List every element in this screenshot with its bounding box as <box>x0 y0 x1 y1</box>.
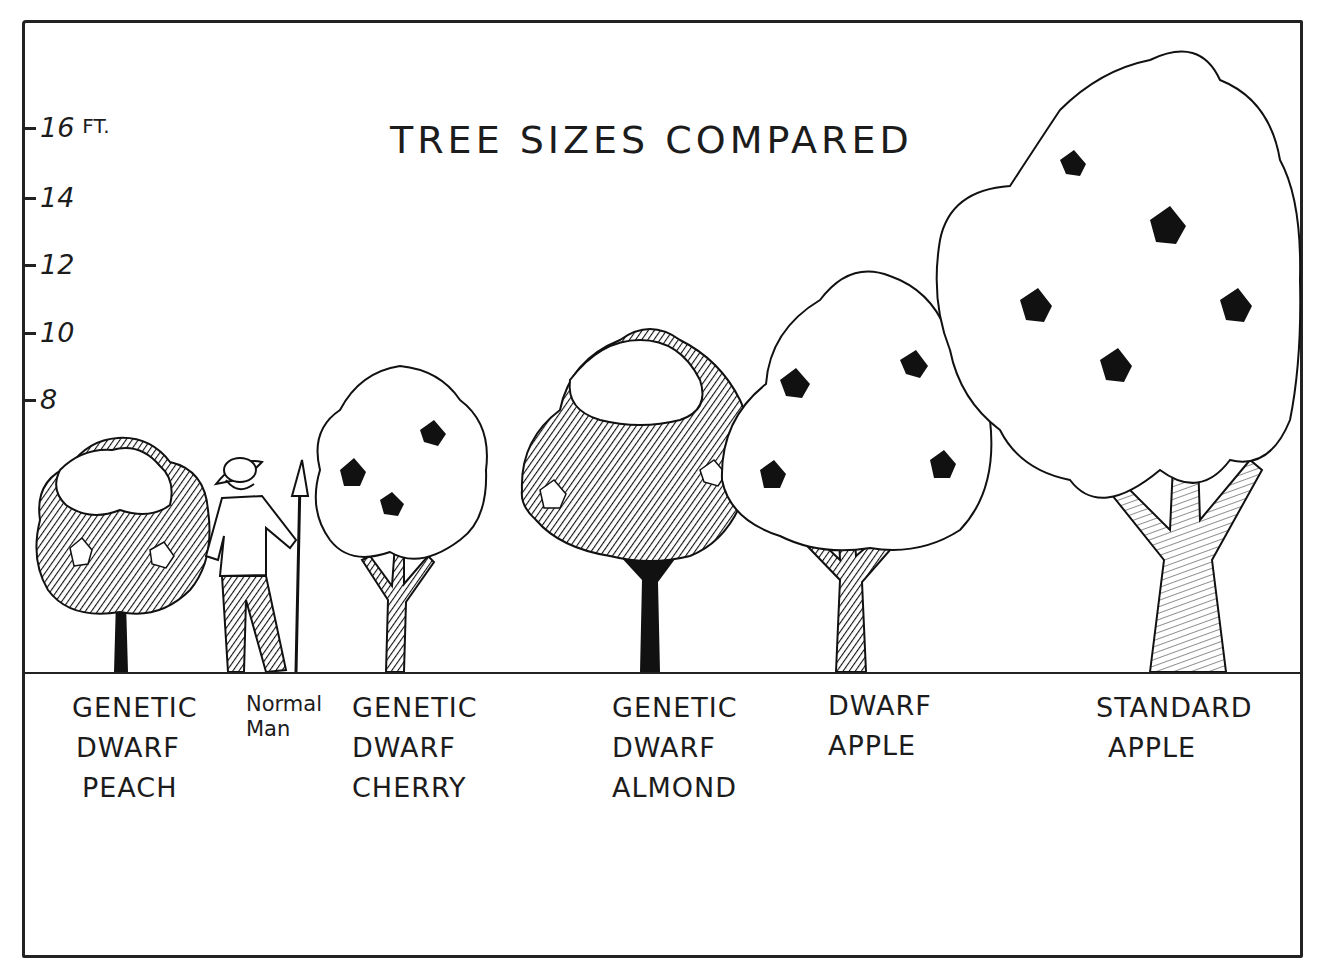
label-genetic-dwarf-almond: GENETIC DWARF ALMOND <box>612 688 738 808</box>
standard-apple-tree-icon <box>937 52 1301 672</box>
ground-line <box>22 672 1303 674</box>
label-line: DWARF <box>72 728 198 768</box>
almond-tree-icon <box>522 329 752 672</box>
label-line: Man <box>246 717 322 742</box>
label-line: APPLE <box>1096 728 1253 768</box>
label-dwarf-apple: DWARF APPLE <box>828 686 932 766</box>
label-line: GENETIC <box>352 688 478 728</box>
label-line: GENETIC <box>612 688 738 728</box>
label-genetic-dwarf-peach: GENETIC DWARF PEACH <box>72 688 198 808</box>
label-line: DWARF <box>828 686 932 726</box>
label-line: DWARF <box>352 728 478 768</box>
label-line: Normal <box>246 692 322 717</box>
label-line: DWARF <box>612 728 738 768</box>
label-line: APPLE <box>828 726 932 766</box>
label-line: CHERRY <box>352 768 478 808</box>
label-genetic-dwarf-cherry: GENETIC DWARF CHERRY <box>352 688 478 808</box>
label-line: STANDARD <box>1096 688 1253 728</box>
tree-illustrations <box>0 0 1322 971</box>
label-line: ALMOND <box>612 768 738 808</box>
peach-tree-icon <box>36 438 209 672</box>
cherry-tree-icon <box>316 366 487 672</box>
label-line: GENETIC <box>72 688 198 728</box>
label-normal-man: Normal Man <box>246 692 322 742</box>
label-standard-apple: STANDARD APPLE <box>1096 688 1253 768</box>
man-figure-icon <box>206 458 308 672</box>
label-line: PEACH <box>72 768 198 808</box>
